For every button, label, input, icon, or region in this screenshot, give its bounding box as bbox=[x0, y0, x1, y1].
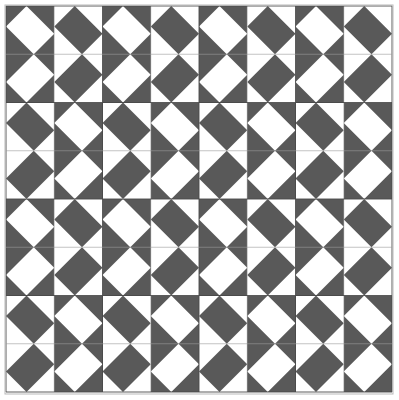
pattern-svg bbox=[0, 0, 399, 400]
pattern-canvas bbox=[0, 0, 399, 400]
